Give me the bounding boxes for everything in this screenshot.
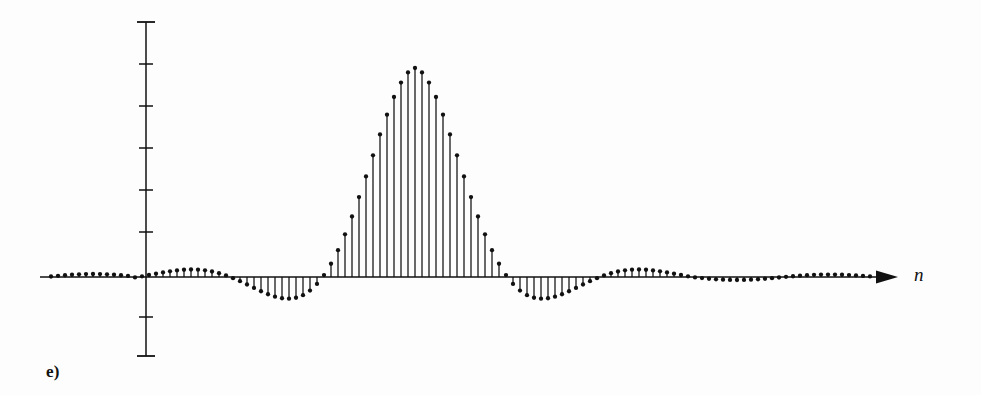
x-axis-arrowhead (876, 271, 898, 284)
stem-marker (714, 277, 718, 281)
stem-marker (133, 275, 137, 279)
stem-marker (833, 272, 837, 276)
stem-marker (112, 273, 116, 277)
stem-marker (644, 268, 648, 272)
stem-marker (581, 282, 585, 286)
stem-marker (525, 293, 529, 297)
stem-marker (707, 277, 711, 281)
stem-marker (497, 262, 501, 266)
stem-marker (560, 292, 564, 296)
stem-marker (588, 279, 592, 283)
stem-marker (203, 268, 207, 272)
stem-marker (119, 273, 123, 277)
stems-group (49, 66, 872, 301)
stem-marker (651, 268, 655, 272)
stem-marker (273, 295, 277, 299)
stem-marker (315, 282, 319, 286)
stem-marker (616, 269, 620, 273)
stem-marker (63, 273, 67, 277)
stem-marker (399, 80, 403, 84)
stem-marker (378, 132, 382, 136)
stem-marker (686, 274, 690, 278)
stem-marker (308, 288, 312, 292)
stem-marker (658, 269, 662, 273)
stem-marker (770, 276, 774, 280)
stem-marker (406, 70, 410, 74)
stem-marker (301, 293, 305, 297)
stem-marker (630, 268, 634, 272)
stem-marker (189, 267, 193, 271)
stem-marker (350, 214, 354, 218)
stem-marker (420, 70, 424, 74)
stem-marker (490, 248, 494, 252)
stem-marker (427, 80, 431, 84)
stem-marker (98, 272, 102, 276)
stem-marker (826, 272, 830, 276)
stem-marker (168, 269, 172, 273)
stem-marker (609, 271, 613, 275)
stem-marker (413, 66, 417, 70)
stem-marker (56, 274, 60, 278)
stem-marker (476, 214, 480, 218)
stem-marker (259, 289, 263, 293)
stem-marker (210, 269, 214, 273)
stem-marker (840, 273, 844, 277)
stem-marker (196, 268, 200, 272)
axes-group (40, 22, 898, 356)
stem-marker (791, 274, 795, 278)
stem-marker (364, 174, 368, 178)
stem-marker (84, 272, 88, 276)
stem-marker (819, 272, 823, 276)
stem-marker (539, 297, 543, 301)
stem-marker (574, 286, 578, 290)
stem-marker (553, 295, 557, 299)
stem-marker (805, 273, 809, 277)
stem-marker (329, 262, 333, 266)
stem-marker (511, 282, 515, 286)
stem-marker (602, 273, 606, 277)
stem-marker (868, 274, 872, 278)
stem-marker (280, 296, 284, 300)
stem-marker (504, 273, 508, 277)
stem-marker (462, 174, 466, 178)
stem-marker (231, 276, 235, 280)
stem-marker (70, 273, 74, 277)
stem-marker (147, 273, 151, 277)
stem-marker (49, 274, 53, 278)
stem-marker (637, 267, 641, 271)
stem-marker (749, 278, 753, 282)
stem-marker (448, 132, 452, 136)
stem-plot-canvas (0, 0, 981, 395)
stem-marker (847, 273, 851, 277)
stem-marker (77, 272, 81, 276)
figure-panel: e) n (0, 0, 981, 395)
stem-marker (238, 279, 242, 283)
stem-marker (861, 274, 865, 278)
stem-marker (742, 278, 746, 282)
stem-marker (700, 276, 704, 280)
stem-marker (721, 278, 725, 282)
stem-marker (763, 277, 767, 281)
stem-marker (357, 195, 361, 199)
stem-marker (182, 268, 186, 272)
stem-marker (392, 95, 396, 99)
stem-marker (224, 273, 228, 277)
stem-marker (798, 274, 802, 278)
stem-marker (126, 274, 130, 278)
stem-marker (385, 112, 389, 116)
stem-marker (154, 272, 158, 276)
stem-marker (441, 112, 445, 116)
stem-marker (322, 273, 326, 277)
stem-marker (287, 297, 291, 301)
stem-marker (91, 272, 95, 276)
stem-marker (665, 270, 669, 274)
stem-marker (546, 296, 550, 300)
stem-marker (854, 273, 858, 277)
stem-marker (518, 288, 522, 292)
stem-marker (434, 95, 438, 99)
stem-marker (784, 275, 788, 279)
stem-marker (679, 273, 683, 277)
stem-marker (245, 282, 249, 286)
stem-marker (532, 296, 536, 300)
stem-marker (266, 292, 270, 296)
